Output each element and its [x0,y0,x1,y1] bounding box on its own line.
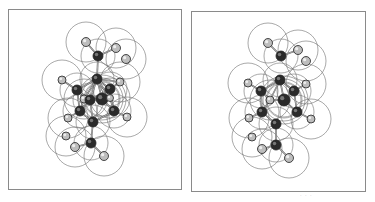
light-atom [248,133,256,141]
light-atom [307,115,315,123]
light-atom [62,132,70,140]
light-atom [116,78,124,86]
dark-atom [105,84,115,94]
light-atom [264,39,273,48]
light-atom [244,79,252,87]
dark-atom [96,93,108,105]
dark-atom [257,107,267,117]
light-atom [82,38,91,47]
dark-atom [93,51,103,61]
dark-atom [75,106,85,116]
dark-atom [109,106,119,116]
light-atom [112,44,121,53]
right-molecule [228,23,331,178]
dark-atom [85,95,95,105]
dark-atom [72,85,82,95]
light-atom [100,152,109,161]
dark-atom [278,94,290,106]
dark-atom [275,75,285,85]
dark-atom [88,117,98,127]
light-atom [302,57,311,66]
caption-mark: · · · [300,192,313,198]
light-atom [266,96,274,104]
light-atom [294,46,303,55]
light-atom [71,143,80,152]
dark-atom [92,74,102,84]
dark-atom [276,51,286,61]
dark-atom [271,119,281,129]
dark-atom [256,86,266,96]
left-molecule [42,22,147,176]
light-atom [107,95,114,102]
dark-atom [289,86,299,96]
light-atom [245,114,253,122]
dark-atom [292,107,302,117]
light-atom [122,55,131,64]
light-atom [64,114,72,122]
molecule-stereo-drawing [0,0,375,202]
light-atom [302,80,310,88]
dark-atom [86,138,96,148]
light-atom [58,76,66,84]
dark-atom [271,140,281,150]
light-atom [285,154,294,163]
light-atom [123,113,131,121]
light-atom [258,145,267,154]
atoms [244,39,315,163]
